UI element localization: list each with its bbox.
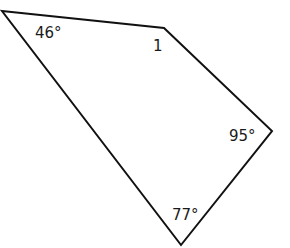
angle-label-1: 1 [153,37,163,55]
quadrilateral-diagram: 46° 1 95° 77° [0,0,290,248]
angle-label-top-left: 46° [35,24,62,42]
angle-label-bottom: 77° [172,206,199,224]
angle-label-right: 95° [229,127,256,145]
